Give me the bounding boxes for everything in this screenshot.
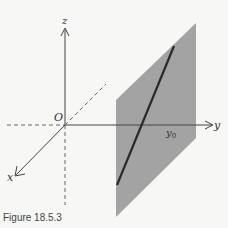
y-label: y (213, 119, 221, 132)
origin-label: O (54, 111, 63, 124)
figure-caption: Figure 18.5.3 (3, 212, 62, 223)
z-label: z (61, 15, 68, 26)
x-axis (16, 125, 65, 175)
x-axis-negative (65, 84, 106, 125)
figure-diagram: z y x O y0 (0, 0, 228, 228)
plane (116, 23, 196, 217)
x-label: x (7, 171, 14, 184)
